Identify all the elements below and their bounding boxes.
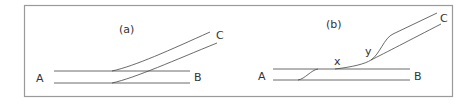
label-a-A: A — [36, 72, 44, 85]
panel-b-caption: (b) — [326, 18, 342, 31]
branch-b-lower — [371, 24, 441, 60]
label-b-A: A — [258, 70, 266, 83]
label-b-C: C — [440, 12, 448, 25]
label-b-x: x — [334, 55, 341, 68]
panel-a-caption: (a) — [119, 23, 134, 36]
label-b-y: y — [365, 45, 372, 58]
panel-a: (a) A B C — [36, 23, 224, 85]
branch-b-upper — [371, 13, 437, 60]
label-a-C: C — [216, 29, 224, 42]
label-b-B: B — [414, 70, 422, 83]
label-a-B: B — [194, 71, 202, 84]
crossover-b — [298, 69, 318, 80]
panel-b: (b) A B C x y — [258, 12, 448, 83]
diagram-canvas: (a) A B C (b) A B C x y — [0, 0, 475, 110]
